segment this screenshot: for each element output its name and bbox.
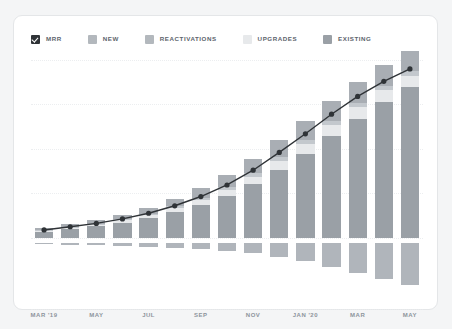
- plot-area: [31, 60, 423, 284]
- mrr-data-point[interactable]: [277, 150, 282, 155]
- legend-item-label: UPGRADES: [258, 36, 297, 42]
- x-axis-tick-label: NOV: [246, 312, 261, 318]
- legend-swatch-icon[interactable]: [88, 35, 97, 44]
- legend-item-upgrades[interactable]: UPGRADES: [243, 35, 297, 44]
- legend-item-reactivations[interactable]: REACTIVATIONS: [145, 35, 217, 44]
- mrr-data-point[interactable]: [68, 224, 73, 229]
- mrr-data-point[interactable]: [120, 216, 125, 221]
- mrr-data-point[interactable]: [41, 227, 46, 232]
- legend-item-new[interactable]: NEW: [88, 35, 119, 44]
- x-axis-tick-label: MAR '19: [31, 312, 58, 318]
- mrr-data-point[interactable]: [198, 194, 203, 199]
- chart-legend: MRRNEWREACTIVATIONSUPGRADESEXISTING: [14, 28, 437, 50]
- mrr-data-point[interactable]: [303, 131, 308, 136]
- checkbox-checked-icon[interactable]: [31, 35, 40, 44]
- legend-item-label: MRR: [46, 36, 62, 42]
- x-axis-baseline: [31, 309, 423, 310]
- mrr-line-path: [44, 69, 410, 230]
- x-axis-tick-label: SEP: [194, 312, 208, 318]
- mrr-data-point[interactable]: [172, 203, 177, 208]
- mrr-data-point[interactable]: [251, 168, 256, 173]
- x-axis-tick-label: JUL: [142, 312, 155, 318]
- legend-item-label: NEW: [103, 36, 119, 42]
- mrr-data-point[interactable]: [381, 79, 386, 84]
- legend-item-mrr[interactable]: MRR: [31, 35, 62, 44]
- x-axis-tick-label: MAY: [89, 312, 103, 318]
- mrr-data-point[interactable]: [355, 94, 360, 99]
- x-axis-tick-label: MAR: [350, 312, 365, 318]
- legend-swatch-icon[interactable]: [145, 35, 154, 44]
- legend-item-label: REACTIVATIONS: [160, 36, 217, 42]
- mrr-data-point[interactable]: [224, 182, 229, 187]
- legend-item-label: EXISTING: [338, 36, 371, 42]
- x-axis-tick-label: JAN '20: [293, 312, 318, 318]
- legend-item-existing[interactable]: EXISTING: [323, 35, 371, 44]
- mrr-data-point[interactable]: [329, 112, 334, 117]
- legend-swatch-icon[interactable]: [323, 35, 332, 44]
- mrr-line-series: [31, 60, 423, 284]
- x-axis-tick-label: MAY: [403, 312, 417, 318]
- mrr-data-point[interactable]: [146, 211, 151, 216]
- legend-swatch-icon[interactable]: [243, 35, 252, 44]
- x-axis-labels: MAR '19MAYJULSEPNOVJAN '20MARMAY: [31, 312, 423, 326]
- mrr-data-point[interactable]: [407, 66, 412, 71]
- chart-card: MRRNEWREACTIVATIONSUPGRADESEXISTING MAR …: [13, 15, 438, 310]
- mrr-data-point[interactable]: [94, 221, 99, 226]
